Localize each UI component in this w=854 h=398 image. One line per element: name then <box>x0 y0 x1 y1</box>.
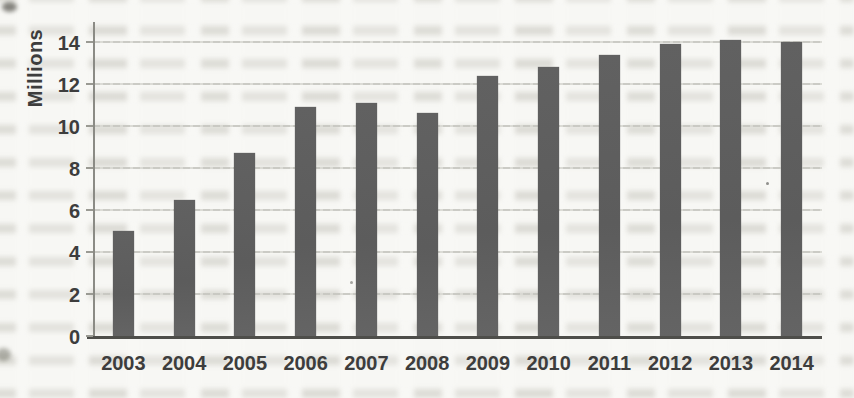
y-axis-tick-mark <box>86 83 93 85</box>
gridline <box>93 83 822 85</box>
y-axis-tick-mark <box>86 335 93 337</box>
x-axis-tick-label: 2012 <box>639 352 701 375</box>
y-axis-tick-label: 6 <box>38 200 80 223</box>
x-axis-tick-label: 2003 <box>92 352 154 375</box>
y-axis-tick-label: 10 <box>38 116 80 139</box>
y-axis-tick-label: 14 <box>38 32 80 55</box>
x-axis-tick-label: 2010 <box>518 352 580 375</box>
y-axis-line <box>93 22 95 338</box>
gridline <box>93 251 822 253</box>
gridline <box>93 167 822 169</box>
y-axis-tick-mark <box>86 167 93 169</box>
bar-2004 <box>174 200 195 337</box>
x-axis-tick-label: 2009 <box>457 352 519 375</box>
y-axis-tick-mark <box>86 251 93 253</box>
y-axis-tick-mark <box>86 41 93 43</box>
gridline <box>93 209 822 211</box>
gridline <box>93 293 822 295</box>
x-axis-tick-label: 2005 <box>214 352 276 375</box>
x-axis-tick-label: 2011 <box>578 352 640 375</box>
bar-2009 <box>477 76 498 336</box>
bar-2012 <box>660 44 681 336</box>
bar-2008 <box>417 113 438 336</box>
x-axis-line <box>87 336 822 339</box>
y-axis-tick-label: 12 <box>38 74 80 97</box>
x-axis-tick-label: 2013 <box>700 352 762 375</box>
bar-2014 <box>781 42 802 336</box>
bar-2013 <box>720 40 741 336</box>
x-axis-tick-label: 2007 <box>335 352 397 375</box>
y-axis-tick-label: 4 <box>38 242 80 265</box>
bar-2010 <box>538 67 559 336</box>
bar-2007 <box>356 103 377 336</box>
x-axis-tick-label: 2014 <box>761 352 823 375</box>
gridline <box>93 125 822 127</box>
y-axis-tick-mark <box>86 209 93 211</box>
bar-2005 <box>234 153 255 336</box>
bar-2011 <box>599 55 620 336</box>
y-axis-tick-label: 8 <box>38 158 80 181</box>
bar-2003 <box>113 231 134 336</box>
gridline <box>93 41 822 43</box>
x-axis-tick-label: 2006 <box>275 352 337 375</box>
y-axis-tick-mark <box>86 125 93 127</box>
y-axis-tick-mark <box>86 293 93 295</box>
y-axis-tick-label: 0 <box>38 326 80 349</box>
bar-2006 <box>295 107 316 336</box>
y-axis-tick-label: 2 <box>38 284 80 307</box>
x-axis-tick-label: 2004 <box>153 352 215 375</box>
x-axis-tick-label: 2008 <box>396 352 458 375</box>
